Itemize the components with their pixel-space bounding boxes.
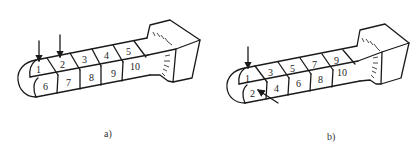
head-block-a — [147, 20, 200, 82]
cell-label: 6 — [43, 81, 48, 92]
figure-caption-b: b) — [327, 131, 335, 143]
diagram-canvas: 1 2 3 4 5 6 7 8 9 10 a) — [0, 0, 417, 148]
divider — [288, 78, 289, 95]
cell-label: 7 — [66, 77, 71, 88]
cell-label: 3 — [82, 54, 87, 65]
cell-label: 10 — [337, 67, 347, 78]
divider — [57, 75, 58, 93]
head-top — [147, 20, 200, 55]
cell-label: 8 — [89, 72, 94, 83]
cell-label: 8 — [318, 74, 323, 85]
head-top — [357, 24, 409, 61]
cell-label: 7 — [312, 59, 317, 70]
cell-label: 2 — [60, 59, 65, 70]
cell-label: 5 — [290, 63, 295, 74]
head-front — [173, 40, 200, 82]
divider — [70, 53, 80, 70]
cell-label: 6 — [296, 78, 301, 89]
cell-label: 9 — [111, 68, 116, 79]
divider — [113, 45, 123, 62]
divider — [332, 70, 333, 87]
head-bottom — [360, 80, 381, 84]
cell-label: 4 — [104, 50, 109, 61]
figure-a: 1 2 3 4 5 6 7 8 9 10 a) — [18, 20, 200, 140]
head-front — [381, 43, 409, 84]
head-bottom — [150, 75, 173, 82]
divider — [122, 62, 123, 81]
rounded-end-outer — [18, 60, 36, 97]
cell-label: 2 — [250, 88, 255, 99]
fillet-hatching — [153, 32, 172, 76]
figure-b: 1 3 5 7 9 2 4 6 8 10 b) — [227, 24, 409, 143]
cell-label: 4 — [274, 83, 279, 94]
cell-label: 1 — [36, 64, 41, 75]
divider — [92, 49, 101, 66]
figure-caption-a: a) — [104, 128, 112, 140]
divider — [134, 41, 146, 57]
cell-label: 1 — [245, 73, 250, 84]
cell-label: 9 — [334, 55, 339, 66]
head-block-b — [357, 24, 409, 84]
rounded-end-outer — [227, 68, 245, 103]
divider — [343, 50, 355, 64]
cell-label: 5 — [126, 46, 131, 57]
divider — [310, 74, 311, 91]
cell-label: 10 — [130, 61, 140, 72]
cell-label: 3 — [268, 67, 273, 78]
